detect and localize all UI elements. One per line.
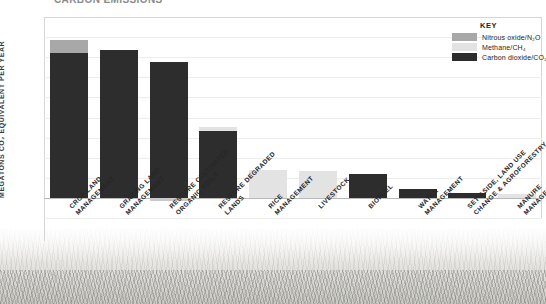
legend-label: Nitrous oxide/N₂O [482,34,541,41]
bar-segment [199,127,237,131]
legend-swatch-icon [452,33,477,41]
bar-segment [50,53,88,198]
gridline [44,218,542,219]
legend-swatch-icon [452,53,477,61]
legend-label: Methane/CH₄ [482,44,526,51]
bar-segment [50,40,88,53]
legend-item-2[interactable]: Carbon dioxide/CO₂ [452,53,546,61]
legend-item-1[interactable]: Methane/CH₄ [452,43,546,51]
legend-rows: Nitrous oxide/N₂OMethane/CH₄Carbon dioxi… [452,33,546,61]
legend: KEY Nitrous oxide/N₂OMethane/CH₄Carbon d… [452,21,546,63]
plot-border-left [44,17,45,241]
chart-title: CARBON EMISSIONS [54,0,163,5]
legend-item-0[interactable]: Nitrous oxide/N₂O [452,33,546,41]
legend-swatch-icon [452,43,477,51]
legend-label: Carbon dioxide/CO₂ [482,54,546,61]
chart-root: CARBON EMISSIONS MEGATONS CO₂ EQUIVALENT… [0,0,546,304]
legend-title: KEY [480,21,546,30]
y-axis-title: MEGATONS CO₂ EQUIVALENT PER YEAR [0,41,5,198]
background-photograph [0,228,546,304]
